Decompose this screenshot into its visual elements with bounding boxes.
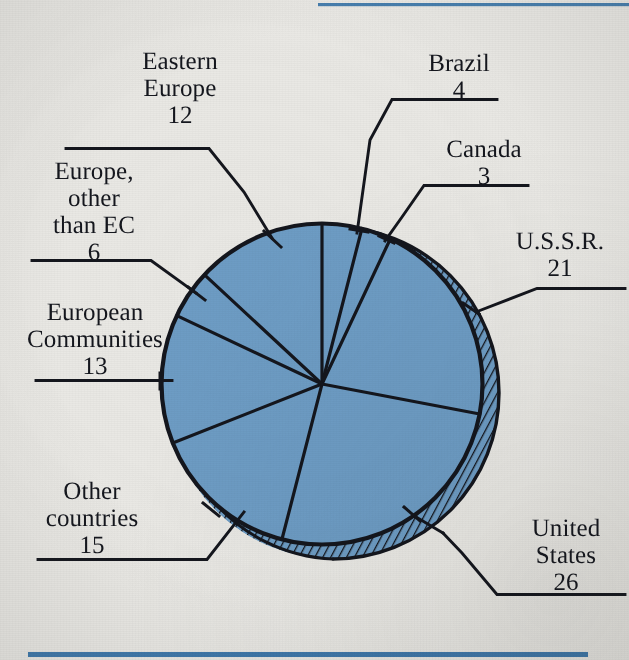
callout-eastern-europe-value: 12 <box>120 102 240 129</box>
figure-root: Eastern Europe 12 Europe, other than EC … <box>0 0 629 660</box>
bottom-rule <box>28 652 588 657</box>
callout-european-communities-line1: European <box>20 299 170 326</box>
pie-body <box>162 224 483 545</box>
callout-europe-other: Europe, other than EC 6 <box>28 158 160 266</box>
callout-brazil-line1: Brazil <box>404 50 514 77</box>
callout-other-countries-line2: countries <box>22 505 162 532</box>
callout-europe-other-line3: than EC <box>28 212 160 239</box>
top-rule <box>318 3 629 6</box>
callout-eastern-europe-line1: Eastern <box>120 48 240 75</box>
callout-eastern-europe-line2: Europe <box>120 75 240 102</box>
callout-united-states: United States 26 <box>510 515 622 596</box>
leader-ussr <box>476 289 625 313</box>
callout-europe-other-value: 6 <box>28 239 160 266</box>
callout-canada-value: 3 <box>422 163 546 190</box>
callout-united-states-line1: United <box>510 515 622 542</box>
callout-eastern-europe: Eastern Europe 12 <box>120 48 240 129</box>
callout-other-countries-line1: Other <box>22 478 162 505</box>
callout-other-countries-value: 15 <box>22 532 162 559</box>
callout-united-states-value: 26 <box>510 569 622 596</box>
callout-european-communities-value: 13 <box>20 353 170 380</box>
callout-canada: Canada 3 <box>422 136 546 190</box>
callout-brazil-value: 4 <box>404 77 514 104</box>
callout-other-countries: Other countries 15 <box>22 478 162 559</box>
callout-europe-other-line2: other <box>28 185 160 212</box>
callout-ussr-line1: U.S.S.R. <box>497 228 623 255</box>
callout-european-communities-line2: Communities <box>20 326 170 353</box>
callout-european-communities: European Communities 13 <box>20 299 170 380</box>
callout-ussr: U.S.S.R. 21 <box>497 228 623 282</box>
callout-europe-other-line1: Europe, <box>28 158 160 185</box>
callout-united-states-line2: States <box>510 542 622 569</box>
callout-ussr-value: 21 <box>497 255 623 282</box>
callout-canada-line1: Canada <box>422 136 546 163</box>
callout-brazil: Brazil 4 <box>404 50 514 104</box>
